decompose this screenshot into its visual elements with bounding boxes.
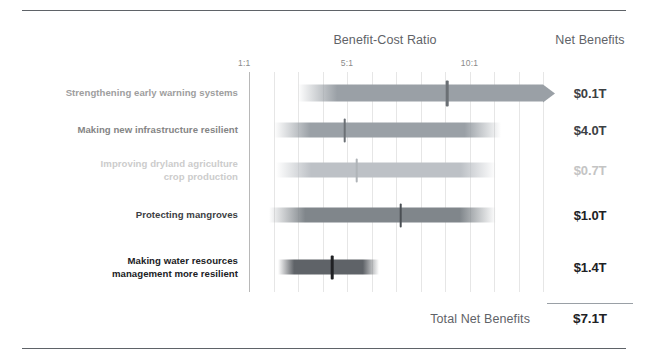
row-label-line: crop production: [164, 170, 238, 181]
bar-value-marker: [400, 203, 403, 227]
total-net-benefits-label: Total Net Benefits: [400, 312, 530, 326]
bar-row: [274, 123, 502, 138]
row-label-1: Strengthening early warning systems: [16, 87, 238, 100]
axis-tick-label: 10:1: [461, 58, 478, 68]
bar-value-marker: [343, 118, 346, 142]
bar-range: [276, 163, 497, 178]
gridline: [421, 72, 422, 292]
bar-value-marker: [355, 158, 358, 182]
row-label-line: Protecting mangroves: [136, 209, 238, 220]
net-benefit-values-column: $0.1T$4.0T$0.7T$1.0T$1.4T: [540, 0, 640, 363]
row-label-line: Making water resources: [128, 255, 238, 266]
gridline: [396, 72, 397, 292]
bar-row: [269, 208, 497, 223]
bar-row: [276, 163, 497, 178]
row-labels-column: Strengthening early warning systemsMakin…: [12, 0, 238, 363]
benefit-cost-ratio-chart: Benefit-Cost Ratio Net Benefits Strength…: [0, 0, 648, 363]
axis-tick-label: 1:1: [238, 58, 250, 68]
net-benefit-value-1: $0.1T: [540, 86, 640, 101]
net-benefit-value-4: $1.0T: [540, 208, 640, 223]
row-label-line: Making new infrastructure resilient: [77, 124, 238, 135]
bar-value-marker: [331, 255, 334, 279]
gridline: [470, 72, 471, 292]
row-label-3: Improving dryland agriculturecrop produc…: [16, 158, 238, 183]
net-benefit-value-2: $4.0T: [540, 123, 640, 138]
total-divider: [547, 303, 633, 304]
row-label-line: Improving dryland agriculture: [101, 158, 238, 169]
row-label-5: Making water resourcesmanagement more re…: [16, 255, 238, 280]
gridline: [274, 72, 275, 292]
net-benefit-value-3: $0.7T: [540, 163, 640, 178]
bar-range: [274, 123, 502, 138]
net-benefit-value-5: $1.4T: [540, 260, 640, 275]
gridline: [494, 72, 495, 292]
benefit-cost-ratio-header: Benefit-Cost Ratio: [305, 33, 465, 47]
row-label-2: Making new infrastructure resilient: [16, 124, 238, 137]
axis-tick-label: 5:1: [341, 58, 353, 68]
axis-baseline: [249, 72, 250, 292]
row-label-line: Strengthening early warning systems: [66, 87, 238, 98]
bar-value-marker: [446, 80, 449, 106]
gridline: [519, 72, 520, 292]
bar-arrowhead-icon: [543, 84, 555, 102]
bar-row: [278, 260, 378, 275]
bar-range: [269, 208, 497, 223]
bar-row: [298, 85, 555, 102]
bottom-divider: [22, 348, 626, 349]
bar-range: [278, 260, 378, 275]
row-label-4: Protecting mangroves: [16, 209, 238, 222]
bar-range: [298, 85, 543, 102]
total-net-benefits-value: $7.1T: [540, 311, 640, 326]
row-label-line: management more resilient: [112, 267, 238, 278]
